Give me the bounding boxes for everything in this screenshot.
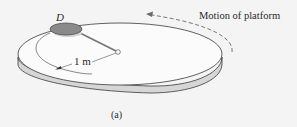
- radius-label: 1 m: [74, 55, 91, 67]
- platform-top: [18, 23, 222, 85]
- motion-arrowhead-icon: [146, 12, 153, 18]
- disk-d: [50, 23, 82, 35]
- disk-label: D: [56, 11, 64, 23]
- motion-label: Motion of platform: [199, 10, 280, 21]
- figure-caption: (a): [111, 109, 122, 120]
- pivot-icon: [116, 50, 121, 55]
